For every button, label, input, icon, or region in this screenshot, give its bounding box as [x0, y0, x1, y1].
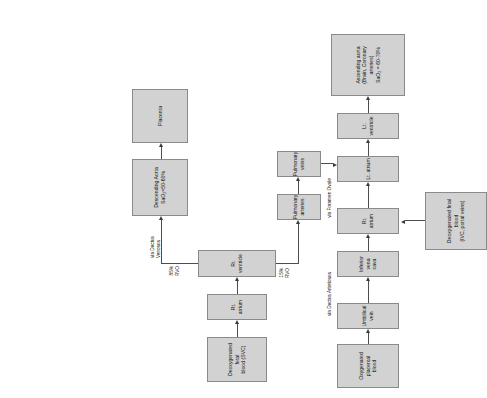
- node-deoxygenated-fetal-blood-ivc-portal: Deoxygenated fetal blood (IVC, portal ve…: [425, 192, 487, 250]
- connector-placental-to-umbilical-vein: [368, 333, 369, 344]
- connector-umbilical-vein-to-ivc: [368, 281, 369, 303]
- edge-label-via-ductus-venosus: via Ductus Venosus: [150, 218, 162, 258]
- connector-rt-ventricle-85-rvo-vertical: [161, 263, 198, 264]
- connector-lt-ventricle-to-ascending-aorta: [368, 100, 369, 113]
- node-rt-atrium-lower: Rt. atrium: [337, 208, 399, 234]
- node-pulmonary-veins: Pulmonary veins: [277, 151, 321, 177]
- connector-ivc-portal-to-rt-atrium: [405, 220, 425, 221]
- node-umbilical-vein: Umbilical vein: [337, 303, 399, 329]
- connector-ivc-to-rt-atrium: [368, 238, 369, 251]
- arrowhead-to-lt-ventricle: [366, 139, 370, 143]
- node-lt-atrium: Lt. atrium: [337, 156, 399, 182]
- arrowhead-to-pulmonary-arteries: [296, 220, 300, 224]
- connector-pulmonary-veins-to-lt-atrium: [321, 163, 333, 164]
- connector-rt-ventricle-15-rvo-horizontal: [298, 224, 299, 264]
- connector-descending-aorta-to-placenta: [161, 147, 162, 159]
- edge-label-via-foramen-ovale: via Foramen Ovale: [327, 172, 333, 224]
- edge-label-15-rvo: 15% RVO: [279, 268, 291, 292]
- node-inferior-vena-cava: Inferior vena cava: [337, 251, 399, 277]
- arrowhead-to-rt-atrium-from-below: [401, 220, 405, 224]
- node-deoxygenated-fetal-blood-svc: Deoxygenated fetal blood (SVC): [207, 337, 267, 382]
- connector-svc-to-rt-atrium: [237, 324, 238, 337]
- node-descending-aorta: Descending Aorta SaO₂=50-60%: [132, 159, 188, 216]
- arrowhead-to-placenta: [159, 143, 163, 147]
- edge-label-85-rvo: 85% RVO: [169, 266, 181, 290]
- fetal-circulation-diagram: Deoxygenated fetal blood (SVC) Rt. atriu…: [19, 0, 301, 398]
- arrowhead-svc-to-rt-atrium: [235, 320, 239, 324]
- arrowhead-rt-atrium-to-rt-ventricle: [235, 277, 239, 281]
- connector-rt-atrium-to-rt-ventricle: [237, 281, 238, 294]
- node-rt-ventricle: Rt. ventricle: [198, 250, 276, 277]
- connector-pulmonary-arteries-to-veins: [298, 181, 299, 194]
- arrowhead-to-rt-atrium-lower: [366, 234, 370, 238]
- node-ascending-aorta: Ascending aorta (Brain, Coronary arterie…: [331, 34, 405, 96]
- node-pulmonary-arteries: Pulmonary arteries: [277, 194, 321, 220]
- node-placenta: Placenta: [132, 89, 188, 143]
- arrowhead-to-umbilical-vein: [366, 329, 370, 333]
- connector-lt-atrium-to-lt-ventricle: [368, 143, 369, 156]
- arrowhead-to-lt-atrium: [366, 182, 370, 186]
- arrowhead-to-ascending-aorta: [366, 96, 370, 100]
- node-oxygenated-placental-blood: Oxygenated placental blood: [337, 344, 399, 388]
- node-rt-atrium-upper: Rt. atrium: [207, 294, 267, 320]
- connector-rt-ventricle-15-rvo-vertical: [276, 263, 298, 264]
- node-lt-ventricle: Lt. ventricle: [337, 113, 399, 139]
- arrowhead-to-inferior-vena-cava: [366, 277, 370, 281]
- arrowhead-to-pulmonary-veins: [296, 177, 300, 181]
- connector-rt-atrium-to-lt-atrium: [368, 186, 369, 208]
- edge-label-via-ductus-arteriosus: via Ductus Arteriosus: [327, 266, 333, 322]
